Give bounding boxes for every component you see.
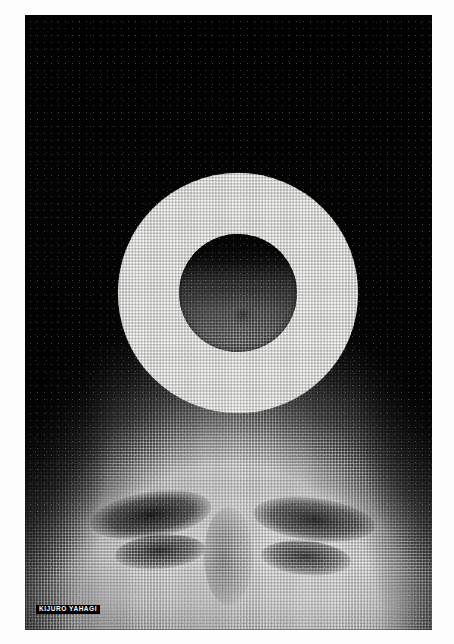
artist-signature: KIJURO YAHAGI [36, 605, 100, 615]
poster-canvas: KIJURO YAHAGI [0, 0, 454, 644]
print-grain [25, 15, 432, 630]
poster-plate: KIJURO YAHAGI [25, 15, 432, 630]
